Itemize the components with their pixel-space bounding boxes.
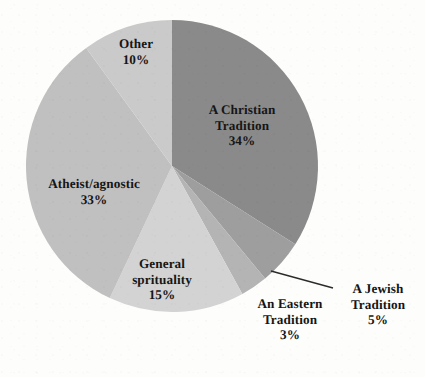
pie-label-atheist-agnostic: Atheist/agnostic 33% [14, 176, 174, 207]
pie-label-a-jewish-tradition: A Jewish Tradition 5% [336, 281, 420, 328]
pie-label-name: General sprituality [110, 256, 214, 287]
pie-label-name: An Eastern Tradition [240, 296, 340, 327]
pie-label-value: 15% [110, 287, 214, 303]
pie-label-value: 34% [186, 133, 298, 149]
pie-label-name: A Jewish Tradition [336, 281, 420, 312]
pie-chart-figure: A Christian Tradition 34% A Jewish Tradi… [0, 0, 425, 377]
pie-label-general-sprituality: General sprituality 15% [110, 256, 214, 303]
pie-label-value: 33% [14, 192, 174, 208]
pie-label-name: Other [93, 36, 179, 52]
pie-label-name: Atheist/agnostic [14, 176, 174, 192]
pie-label-a-christian-tradition: A Christian Tradition 34% [186, 102, 298, 149]
pie-label-an-eastern-tradition: An Eastern Tradition 3% [240, 296, 340, 343]
pie-label-name: A Christian Tradition [186, 102, 298, 133]
pie-label-value: 10% [93, 52, 179, 68]
pie-label-value: 3% [240, 327, 340, 343]
pie-label-other: Other 10% [93, 36, 179, 67]
leader-line-jewish [271, 271, 333, 288]
pie-label-value: 5% [336, 312, 420, 328]
